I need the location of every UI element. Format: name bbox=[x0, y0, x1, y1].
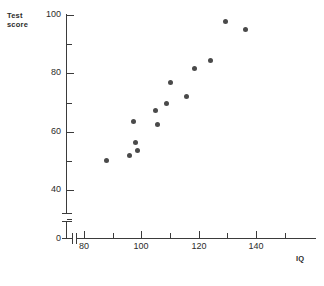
data-point bbox=[223, 19, 228, 24]
x-tick-label: 80 bbox=[70, 242, 98, 251]
x-tick-minor bbox=[113, 233, 114, 238]
x-axis-break-mark-2 bbox=[76, 233, 77, 244]
x-tick-major bbox=[84, 231, 85, 238]
scatter-chart: Test score IQ 040608010080100120140 bbox=[0, 0, 324, 286]
data-point bbox=[243, 27, 248, 32]
data-point bbox=[155, 122, 160, 127]
x-tick-minor bbox=[285, 233, 286, 238]
x-tick-minor bbox=[227, 233, 228, 238]
x-tick-major bbox=[141, 231, 142, 238]
y-tick-major bbox=[67, 132, 74, 133]
data-point bbox=[184, 94, 189, 99]
y-tick-minor bbox=[67, 44, 72, 45]
data-point bbox=[131, 119, 136, 124]
data-point bbox=[127, 153, 132, 158]
y-tick-major bbox=[67, 73, 74, 74]
x-tick-label: 140 bbox=[242, 242, 270, 251]
data-point bbox=[153, 108, 158, 113]
data-point bbox=[192, 66, 197, 71]
x-tick-label: 100 bbox=[127, 242, 155, 251]
x-tick-major bbox=[199, 231, 200, 238]
y-tick-label: 100 bbox=[34, 10, 61, 19]
plot-area: 040608010080100120140 bbox=[0, 0, 324, 286]
x-tick-label: 120 bbox=[185, 242, 213, 251]
data-point bbox=[208, 58, 213, 63]
y-tick-label: 0 bbox=[47, 234, 61, 243]
data-point bbox=[104, 158, 109, 163]
y-tick-minor bbox=[67, 219, 72, 220]
y-tick-label: 40 bbox=[34, 185, 61, 194]
y-tick-major bbox=[67, 190, 74, 191]
x-tick-minor bbox=[170, 233, 171, 238]
data-point bbox=[133, 140, 138, 145]
y-tick-major bbox=[67, 15, 74, 16]
y-tick-label: 60 bbox=[34, 127, 61, 136]
y-tick-minor bbox=[67, 161, 72, 162]
data-point bbox=[135, 148, 140, 153]
y-tick-label: 80 bbox=[34, 68, 61, 77]
data-point bbox=[168, 80, 173, 85]
y-axis-break-mark-1 bbox=[62, 213, 72, 214]
x-tick-major bbox=[256, 231, 257, 238]
data-point bbox=[164, 101, 169, 106]
x-axis-break-gap bbox=[73, 238, 76, 239]
y-axis-break-mark-2 bbox=[62, 221, 72, 222]
y-tick-minor bbox=[67, 103, 72, 104]
y-axis-break-gap bbox=[66, 214, 67, 221]
